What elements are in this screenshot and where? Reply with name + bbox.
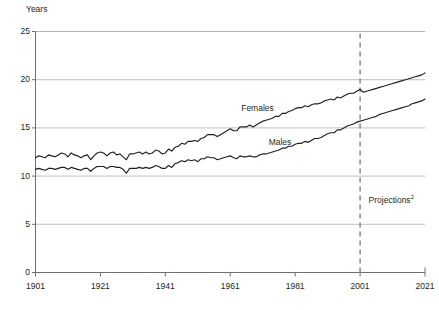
x-tick-label: 2001 bbox=[340, 282, 380, 291]
y-tick-label: 5 bbox=[8, 220, 30, 229]
y-tick-label: 15 bbox=[8, 123, 30, 132]
series-label-females: Females bbox=[241, 104, 274, 113]
tick-mark-group bbox=[32, 32, 425, 277]
data-series-group bbox=[36, 73, 426, 173]
y-tick-label: 20 bbox=[8, 75, 30, 84]
x-tick-label: 2021 bbox=[405, 282, 439, 291]
series-label-males: Males bbox=[269, 138, 292, 147]
x-tick-label: 1921 bbox=[80, 282, 120, 291]
x-tick-label: 1961 bbox=[210, 282, 250, 291]
gridline-group bbox=[36, 32, 426, 225]
y-tick-label: 10 bbox=[8, 172, 30, 181]
x-tick-label: 1901 bbox=[16, 282, 56, 291]
x-tick-label: 1981 bbox=[275, 282, 315, 291]
projections-annotation-label: Projections2 bbox=[369, 196, 414, 205]
axis-group bbox=[36, 32, 426, 273]
y-tick-label: 25 bbox=[8, 27, 30, 36]
y-tick-label: 0 bbox=[8, 268, 30, 277]
x-tick-label: 1941 bbox=[145, 282, 185, 291]
chart-container: Years 0510152025 19011921194119611981200… bbox=[0, 0, 439, 310]
chart-plot-svg bbox=[0, 0, 439, 310]
